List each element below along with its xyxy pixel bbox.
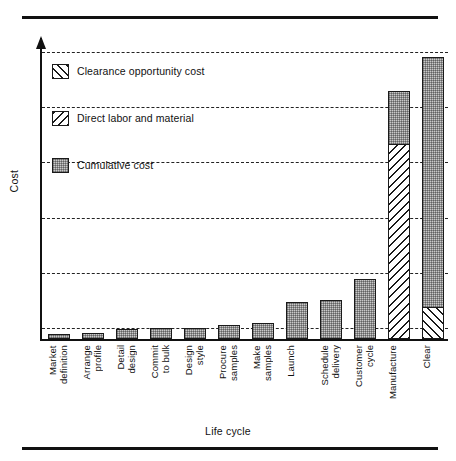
bar-segment xyxy=(389,145,408,338)
bar xyxy=(388,91,409,339)
legend-label: Direct labor and material xyxy=(77,112,194,124)
x-tick-label: Commit to bulk xyxy=(150,345,171,378)
x-tick-label: Schedule delivery xyxy=(320,345,341,385)
x-tick-label: Procure samples xyxy=(218,345,239,381)
legend-label: Cumulative cost xyxy=(77,159,153,171)
bar xyxy=(116,329,137,339)
bar xyxy=(252,323,273,339)
bar xyxy=(320,300,341,339)
x-axis-title: Life cycle xyxy=(0,425,456,437)
bar xyxy=(184,328,205,339)
x-tick-label: Detail design xyxy=(116,345,137,374)
bar-segment xyxy=(423,58,442,309)
top-rule xyxy=(22,16,438,19)
bar-segment xyxy=(423,308,442,338)
x-tick-label: Customer cycle xyxy=(354,345,375,387)
legend: Clearance opportunity costDirect labor a… xyxy=(52,62,205,203)
bar-segment xyxy=(117,330,136,338)
x-tick-label: Manufacture xyxy=(388,345,399,399)
x-tick-label: Make samples xyxy=(252,345,273,381)
bar xyxy=(150,328,171,339)
bar-segment xyxy=(185,329,204,338)
x-tick-label: Launch xyxy=(286,345,297,377)
bar xyxy=(422,57,443,339)
bar xyxy=(48,334,69,339)
bar xyxy=(354,279,375,339)
x-tick-label: Market definition xyxy=(48,345,69,384)
x-tick-label: Arrange profile xyxy=(82,345,103,380)
bar-segment xyxy=(253,324,272,338)
bar xyxy=(218,325,239,339)
legend-label: Clearance opportunity cost xyxy=(77,65,205,77)
x-axis-line xyxy=(40,339,448,341)
bar xyxy=(286,302,307,340)
x-tick-label: Clear xyxy=(422,345,433,368)
bar-segment xyxy=(151,329,170,338)
legend-item: Clearance opportunity cost xyxy=(52,62,205,80)
legend-swatch-backslash-hatch xyxy=(52,111,69,126)
legend-swatch-forwardslash-hatch xyxy=(52,64,69,79)
bar-segment xyxy=(321,301,340,338)
legend-item: Cumulative cost xyxy=(52,156,205,174)
bar-segment xyxy=(287,303,306,339)
bar-segment xyxy=(355,280,374,338)
bar-segment xyxy=(49,335,68,338)
bar-segment xyxy=(389,92,408,144)
legend-swatch-stipple-gray xyxy=(52,158,69,173)
x-tick-label: Design style xyxy=(184,345,205,375)
y-axis-title: Cost xyxy=(8,170,20,192)
bar-segment xyxy=(83,334,102,338)
legend-item: Direct labor and material xyxy=(52,109,205,127)
figure: Cost Life cycle Market definitionArrange… xyxy=(0,0,456,461)
x-tick-labels: Market definitionArrange profileDetail d… xyxy=(42,345,452,405)
bar-segment xyxy=(219,326,238,338)
bottom-rule xyxy=(22,447,438,450)
bar xyxy=(82,333,103,339)
